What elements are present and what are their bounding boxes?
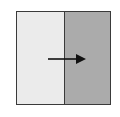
arrow-right-icon	[0, 0, 120, 117]
